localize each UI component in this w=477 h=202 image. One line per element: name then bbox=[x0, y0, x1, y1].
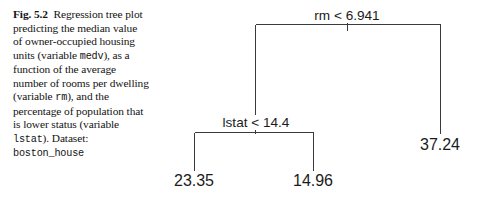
figure-container: Fig. 5.2 Regression tree plot predicting… bbox=[0, 0, 477, 202]
leaf-node-23-35[interactable]: 23.35 bbox=[174, 172, 214, 190]
leaf-node-14-96[interactable]: 14.96 bbox=[293, 172, 333, 190]
leaf-node-37-24[interactable]: 37.24 bbox=[420, 136, 460, 154]
split-node-lstat[interactable]: lstat < 14.4 bbox=[220, 115, 293, 130]
tree-connector-lines bbox=[0, 0, 477, 202]
split-node-rm[interactable]: rm < 6.941 bbox=[311, 8, 382, 23]
regression-tree-diagram: rm < 6.941 lstat < 14.4 23.35 14.96 37.2… bbox=[0, 0, 477, 202]
